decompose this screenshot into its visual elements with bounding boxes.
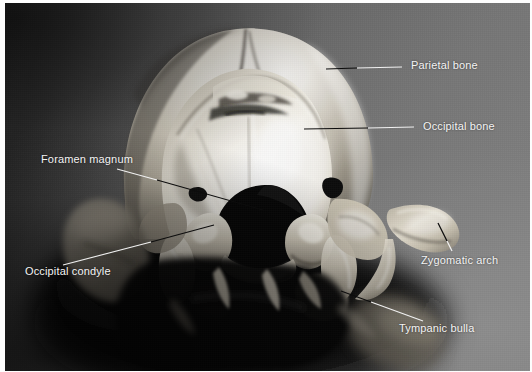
leader-line-tympanic-bulla-light (371, 302, 423, 321)
label-occipital-condyle: Occipital condyle (25, 265, 111, 278)
label-zygomatic-arch: Zygomatic arch (421, 254, 498, 267)
figure-plate: Parietal bone Occipital bone Foramen mag… (0, 0, 532, 372)
leader-line-occipital-condyle-light (63, 242, 151, 265)
leader-line-zygomatic-arch-dark (438, 223, 447, 241)
leader-line-occipital-bone-dark (304, 128, 368, 129)
annotation-layer: Parietal bone Occipital bone Foramen mag… (5, 3, 530, 371)
anatomical-photograph: Parietal bone Occipital bone Foramen mag… (5, 3, 530, 371)
leader-line-occipital-bone-light (368, 127, 414, 128)
label-parietal-bone: Parietal bone (411, 59, 478, 72)
label-tympanic-bulla: Tympanic bulla (399, 322, 474, 335)
leader-line-parietal-bone-light (357, 67, 402, 68)
leader-line-occipital-condyle-dark (151, 225, 214, 242)
leader-line-parietal-bone-dark (326, 68, 357, 69)
label-occipital-bone: Occipital bone (423, 120, 495, 133)
leader-line-zygomatic-arch-light (447, 241, 452, 251)
leader-line-tympanic-bulla-dark (341, 291, 371, 302)
leader-line-foramen-magnum-light (117, 169, 157, 180)
leader-line-foramen-magnum-dark (157, 180, 263, 210)
label-foramen-magnum: Foramen magnum (41, 153, 133, 166)
